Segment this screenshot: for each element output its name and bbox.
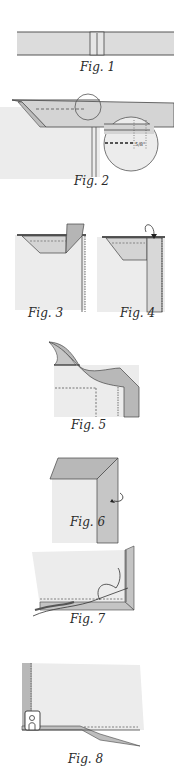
figure-2: 5/8" Fig. 2 [0,90,174,200]
figure-1: Fig. 1 [0,0,174,80]
fig-2-caption: Fig. 2 [74,174,109,188]
fig-6-caption: Fig. 6 [70,515,105,529]
figure-5: Fig. 5 [0,335,174,435]
seam-allowance-label: 5/8" [135,141,145,147]
fig-3-caption: Fig. 3 [28,306,63,320]
fold-arrow-icon [145,225,154,234]
figure-3-4-row: Fig. 3 Fig. 4 [0,220,174,325]
fig-8-caption: Fig. 8 [68,752,103,766]
stitching-corner-illustration [0,550,174,640]
figure-7: Fig. 7 [0,550,174,640]
fig-7-caption: Fig. 7 [70,612,105,626]
fig-1-caption: Fig. 1 [80,60,115,74]
corner-turn-illustration [0,455,174,545]
figure-6: Fig. 6 [0,455,174,545]
fig-5-caption: Fig. 5 [71,418,106,432]
presser-foot-icon [25,711,40,730]
magnified-inset: 5/8" [104,117,158,171]
figure-8: Fig. 8 [0,660,174,770]
fig-4-caption: Fig. 4 [120,306,155,320]
